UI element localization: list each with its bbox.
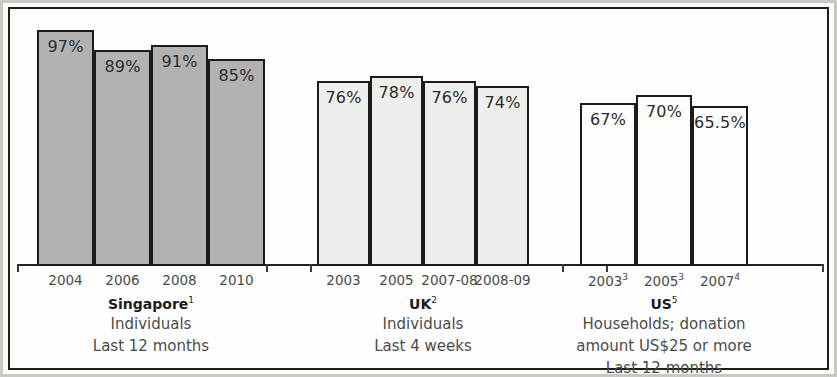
category-tick-label: 2008-09 [458,272,548,288]
group-caption: US5Households; donationamount US$25 or m… [504,291,824,377]
axis-tick [562,264,564,272]
bar: 76% [423,81,476,266]
axis-tick [17,264,19,272]
bar: 76% [317,81,370,266]
category-tick-label: 2010 [192,272,282,288]
axis-tick [266,264,268,272]
figure-container: 97%89%91%85%2004200620082010Singapore1In… [0,0,837,377]
group-name-label: US5 [504,291,824,313]
category-tick-label: 20074 [675,272,765,289]
group-description-line: amount US$25 or more [504,335,824,357]
group-description-line: Last 12 months [504,357,824,377]
bar-value-label: 78% [372,83,421,102]
chart-frame: 97%89%91%85%2004200620082010Singapore1In… [8,7,829,370]
bar: 70% [636,95,692,266]
bar-value-label: 97% [39,37,92,56]
bar-value-label: 76% [319,88,368,107]
bar-value-label: 67% [582,110,634,129]
bar-value-label: 74% [478,93,527,112]
axis-tick [310,264,312,272]
bar: 97% [37,30,94,266]
bar: 85% [208,59,265,266]
bar: 89% [94,50,151,266]
bar: 74% [476,86,529,266]
bar-value-label: 70% [638,102,690,121]
axis-tick [822,264,824,272]
plot-area: 97%89%91%85%2004200620082010Singapore1In… [10,9,831,372]
bar-value-label: 91% [153,52,206,71]
bar: 67% [580,103,636,266]
bar: 65.5% [692,106,748,266]
bar-value-label: 89% [96,57,149,76]
bar-value-label: 85% [210,66,263,85]
group-description-line: Households; donation [504,313,824,335]
bar: 78% [370,76,423,266]
bar-value-label: 65.5% [694,113,746,132]
bar-value-label: 76% [425,88,474,107]
bar: 91% [151,45,208,266]
